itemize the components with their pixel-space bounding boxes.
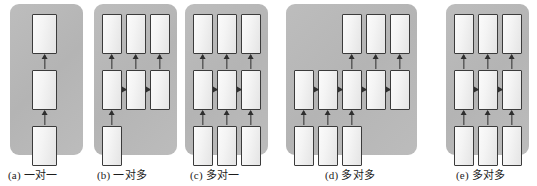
arrow-head bbox=[122, 87, 127, 93]
panel-d-input-cell-3 bbox=[342, 126, 362, 166]
arrow-head bbox=[314, 87, 319, 93]
panel-c-hidden-cell-2 bbox=[217, 70, 237, 110]
arrow-head bbox=[213, 87, 218, 93]
panel-c-hidden-cell-1 bbox=[193, 70, 213, 110]
panel-c bbox=[185, 4, 268, 155]
arrow-head bbox=[248, 110, 254, 115]
arrow-head bbox=[485, 54, 491, 59]
panel-e-output-cell-3 bbox=[502, 14, 522, 54]
panel-d-hidden-cell-5 bbox=[390, 70, 410, 110]
panel-d-caption: (d) 多对多 bbox=[325, 166, 375, 182]
arrow-head bbox=[248, 54, 254, 59]
panel-e bbox=[446, 4, 529, 155]
panel-d-hidden-cell-3 bbox=[342, 70, 362, 110]
arrow-head bbox=[224, 110, 230, 115]
arrow-head bbox=[461, 54, 467, 59]
arrow-head bbox=[109, 54, 115, 59]
arrow-head bbox=[509, 54, 515, 59]
panel-b-hidden-cell-2 bbox=[126, 70, 146, 110]
panel-d-hidden-cell-2 bbox=[318, 70, 338, 110]
panel-b-input-cell-1 bbox=[102, 126, 122, 166]
arrow-head bbox=[301, 110, 307, 115]
arrow-head bbox=[41, 54, 47, 59]
panel-d-hidden-cell-1 bbox=[294, 70, 314, 110]
panel-b-caption: (b) 一对多 bbox=[97, 166, 147, 182]
panel-c-output-cell-2 bbox=[217, 14, 237, 54]
panel-e-input-cell-2 bbox=[478, 126, 498, 166]
arrow-head bbox=[200, 110, 206, 115]
arrow-head bbox=[349, 110, 355, 115]
panel-e-hidden-cell-1 bbox=[454, 70, 474, 110]
arrow-head bbox=[325, 110, 331, 115]
panel-c-output-cell-3 bbox=[241, 14, 261, 54]
panel-e-hidden-cell-2 bbox=[478, 70, 498, 110]
panel-d-output-cell-3 bbox=[390, 14, 410, 54]
panel-e-input-cell-1 bbox=[454, 126, 474, 166]
panel-e-output-cell-2 bbox=[478, 14, 498, 54]
panel-d bbox=[286, 4, 417, 155]
panel-d-hidden-cell-4 bbox=[366, 70, 386, 110]
arrow-head bbox=[349, 54, 355, 59]
arrow-head bbox=[146, 87, 151, 93]
arrow-head bbox=[41, 110, 47, 115]
arrow-head bbox=[461, 110, 467, 115]
panel-d-output-cell-1 bbox=[342, 14, 362, 54]
panel-d-input-cell-2 bbox=[318, 126, 338, 166]
arrow-head bbox=[237, 87, 242, 93]
panel-a-input-cell-1 bbox=[32, 126, 57, 166]
arrow-head bbox=[157, 54, 163, 59]
panel-e-hidden-cell-3 bbox=[502, 70, 522, 110]
arrow-head bbox=[373, 54, 379, 59]
panel-b-output-cell-2 bbox=[126, 14, 146, 54]
panel-b bbox=[94, 4, 177, 155]
panel-b-output-cell-3 bbox=[150, 14, 170, 54]
arrow-head bbox=[509, 110, 515, 115]
panel-c-output-cell-1 bbox=[193, 14, 213, 54]
panel-c-input-cell-1 bbox=[193, 126, 213, 166]
panel-c-caption: (c) 多对一 bbox=[190, 166, 239, 182]
panel-a bbox=[10, 4, 83, 155]
arrow-head bbox=[498, 87, 503, 93]
panel-b-hidden-cell-3 bbox=[150, 70, 170, 110]
arrow-head bbox=[485, 110, 491, 115]
panel-d-input-cell-1 bbox=[294, 126, 314, 166]
panel-c-input-cell-2 bbox=[217, 126, 237, 166]
panel-e-input-cell-3 bbox=[502, 126, 522, 166]
panel-a-hidden-cell-1 bbox=[32, 70, 57, 110]
panel-e-output-cell-1 bbox=[454, 14, 474, 54]
arrow-head bbox=[386, 87, 391, 93]
arrow-head bbox=[474, 87, 479, 93]
arrow-head bbox=[133, 54, 139, 59]
arrow-head bbox=[338, 87, 343, 93]
panel-e-caption: (e) 多对多 bbox=[456, 166, 505, 182]
arrow-head bbox=[200, 54, 206, 59]
panel-a-caption: (a) 一对一 bbox=[8, 166, 57, 182]
arrow-head bbox=[109, 110, 115, 115]
arrow-head bbox=[362, 87, 367, 93]
panel-d-output-cell-2 bbox=[366, 14, 386, 54]
arrow-head bbox=[397, 54, 403, 59]
panel-b-hidden-cell-1 bbox=[102, 70, 122, 110]
panel-a-output-cell-1 bbox=[32, 14, 57, 54]
panel-c-input-cell-3 bbox=[241, 126, 261, 166]
panel-c-hidden-cell-3 bbox=[241, 70, 261, 110]
panel-b-output-cell-1 bbox=[102, 14, 122, 54]
arrow-head bbox=[224, 54, 230, 59]
rnn-structure-figure: (a) 一对一 bbox=[0, 0, 537, 186]
